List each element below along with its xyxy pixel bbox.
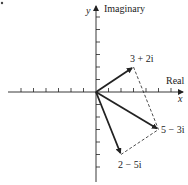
vector-5-minus-3i [96, 92, 157, 129]
x-axis-label: x [177, 93, 183, 104]
label-3-plus-2i: 3 + 2i [130, 53, 154, 64]
real-axis-name: Real [166, 75, 185, 86]
imaginary-axis-name: Imaginary [104, 3, 145, 14]
y-axis-label: y [85, 5, 91, 16]
label-5-minus-3i: 5 − 3i [161, 124, 185, 135]
dashed-side-2 [121, 130, 159, 155]
vector-2-minus-5i [96, 92, 120, 153]
label-2-minus-5i: 2 − 5i [118, 159, 142, 170]
dashed-side-1 [134, 67, 159, 130]
complex-plane-diagram: y Imaginary Real x 3 + 2i 5 − 3i 2 − 5i [0, 0, 188, 185]
vector-3-plus-2i [96, 68, 132, 92]
corner-dot [1, 2, 3, 4]
